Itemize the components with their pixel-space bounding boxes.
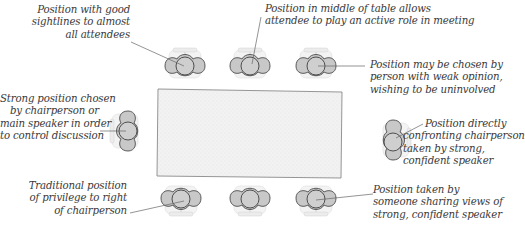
annotation-line: confronting chairperson <box>403 130 525 142</box>
annotation-line: Position in middle of table allows <box>265 3 474 15</box>
annotation-line: Position directly <box>403 118 525 130</box>
annotation-line: person with weak opinion, <box>370 71 503 83</box>
annotation-line: to control discussion <box>0 130 99 142</box>
seat-top-left <box>165 48 205 78</box>
seat-top-right <box>296 48 336 78</box>
annotation-privilege: Traditional position of privilege to rig… <box>20 180 127 217</box>
annotation-sharing-views: Position taken by someone sharing views … <box>373 184 503 221</box>
annotation-line: Position with good <box>20 4 130 16</box>
annotation-line: sightlines to almost <box>20 16 130 28</box>
annotation-line: Position taken by <box>373 184 503 196</box>
annotation-line: of privilege to right <box>20 192 127 204</box>
annotation-line: all attendees <box>20 29 130 41</box>
annotation-line: taken by strong, <box>403 143 525 155</box>
seat-bottom-right <box>296 186 336 216</box>
annotation-line: Strong position chosen <box>0 93 99 105</box>
seat-top-middle <box>230 48 270 78</box>
annotation-line: attendee to play an active role in meeti… <box>265 15 474 27</box>
annotation-line: main speaker in order <box>0 118 99 130</box>
annotation-line: Traditional position <box>20 180 127 192</box>
annotation-line: wishing to be uninvolved <box>370 84 503 96</box>
annotation-line: someone sharing views of <box>373 196 503 208</box>
annotation-line: by chairperson or <box>0 105 99 117</box>
seat-bottom-left <box>161 186 201 216</box>
annotation-line: confident speaker <box>403 155 525 167</box>
annotation-good-sightlines: Position with good sightlines to almost … <box>20 4 130 41</box>
meeting-table <box>157 89 342 178</box>
annotation-confronting: Position directly confronting chairperso… <box>403 118 525 168</box>
annotation-line: Position may be chosen by <box>370 59 503 71</box>
annotation-line: of chairperson <box>20 205 127 217</box>
annotation-weak-opinion: Position may be chosen by person with we… <box>370 59 503 96</box>
annotation-line: strong, confident speaker <box>373 209 503 221</box>
seat-bottom-middle <box>230 186 270 216</box>
annotation-chairperson: Strong position chosen by chairperson or… <box>0 93 99 143</box>
annotation-middle-of-table: Position in middle of table allows atten… <box>265 3 474 28</box>
